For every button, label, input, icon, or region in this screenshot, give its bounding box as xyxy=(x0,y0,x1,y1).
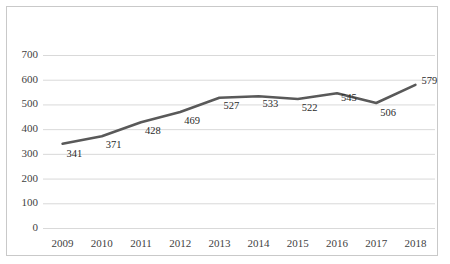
y-axis-tick-label: 0 xyxy=(4,222,38,233)
gridlines-group xyxy=(43,56,435,229)
chart-plot-area xyxy=(0,0,450,264)
series-line-series-1 xyxy=(63,85,416,144)
data-point-label: 579 xyxy=(421,75,437,86)
x-axis-tick-label: 2012 xyxy=(158,238,202,249)
x-axis-tick-label: 2009 xyxy=(41,238,85,249)
y-axis-tick-label: 100 xyxy=(4,197,38,208)
x-axis-tick-label: 2016 xyxy=(315,238,359,249)
y-axis-tick-label: 200 xyxy=(4,173,38,184)
y-axis-tick-label: 500 xyxy=(4,98,38,109)
y-axis-tick-label: 600 xyxy=(4,74,38,85)
data-point-label: 506 xyxy=(380,107,396,118)
data-point-label: 428 xyxy=(145,125,161,136)
data-point-label: 545 xyxy=(341,92,357,103)
x-axis-tick-label: 2013 xyxy=(197,238,241,249)
data-point-label: 371 xyxy=(106,139,122,150)
data-point-label: 469 xyxy=(184,115,200,126)
data-point-label: 533 xyxy=(263,98,279,109)
y-axis-tick-label: 400 xyxy=(4,123,38,134)
x-axis-tick-label: 2017 xyxy=(354,238,398,249)
x-axis-tick-label: 2018 xyxy=(393,238,437,249)
data-point-label: 527 xyxy=(223,100,239,111)
x-axis-tick-label: 2010 xyxy=(80,238,124,249)
x-axis-tick-label: 2015 xyxy=(276,238,320,249)
y-axis-tick-label: 300 xyxy=(4,148,38,159)
x-axis-tick-label: 2011 xyxy=(119,238,163,249)
chart-container: 7006005004003002001000 20092010201120122… xyxy=(0,0,450,264)
y-axis-tick-label: 700 xyxy=(4,49,38,60)
data-point-label: 341 xyxy=(67,148,83,159)
data-point-label: 522 xyxy=(302,102,318,113)
x-axis-tick-label: 2014 xyxy=(237,238,281,249)
